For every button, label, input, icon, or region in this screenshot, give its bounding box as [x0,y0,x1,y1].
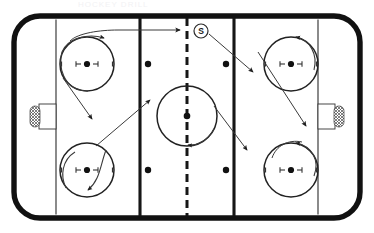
faceoff-dot-bottom-left [84,167,90,173]
faceoff-dot-bottom-right [288,167,294,173]
shooter-marker-label: S [198,26,204,36]
left-net-mesh [30,106,40,127]
faceoff-dot-top-right [288,61,294,67]
right-net-frame [318,104,335,129]
rink-canvas: S [0,0,374,233]
faded-header-text: HOCKEY DRILL [78,0,248,9]
shooter-marker[interactable]: S [194,24,208,38]
right-net [318,104,344,129]
center-ice-dot [184,113,191,120]
neutral-dot-bottom-left [145,167,151,173]
left-net-frame [39,104,56,129]
neutral-dot-bottom-right [223,167,229,173]
neutral-dot-top-left [145,61,151,67]
neutral-dot-top-right [223,61,229,67]
right-net-mesh [334,106,344,127]
left-net [30,104,56,129]
faceoff-dot-top-left [84,61,90,67]
hockey-rink-diagram: HOCKEY DRILL [0,0,374,233]
